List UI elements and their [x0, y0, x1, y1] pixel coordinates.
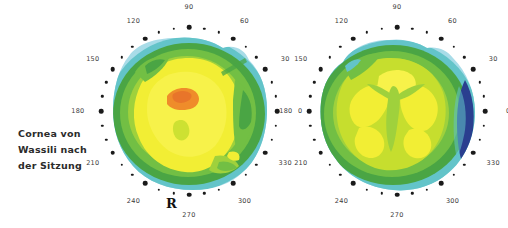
color-bands-left-eye: [297, 14, 497, 204]
tick-dot-major: [143, 36, 148, 41]
tick-label-90: 90: [393, 3, 402, 11]
tick-dot-major: [187, 192, 192, 197]
tick-label-30: 30: [489, 55, 498, 63]
tick-dot-major: [318, 151, 323, 156]
tick-dot-major: [471, 67, 476, 72]
tick-label-270: 270: [390, 211, 403, 219]
tick-dot-major: [483, 109, 488, 114]
tick-dot-major: [187, 25, 192, 30]
tick-dot-major: [351, 181, 356, 186]
tick-dot-major: [110, 67, 115, 72]
topography-surface-left-eye: [297, 14, 497, 204]
topography-map-right-eye: 0306090120150180210240270300330 R: [78, 0, 300, 228]
polar-plot-right-eye: 0306090120150180210240270300330: [89, 14, 289, 204]
tick-dot-major: [351, 36, 356, 41]
tick-label-60: 60: [448, 17, 457, 25]
polar-plot-left-eye: 0306090120150180210240270300330: [297, 14, 497, 204]
tick-dot-major: [263, 67, 268, 72]
tick-label-300: 300: [238, 197, 251, 205]
tick-dot-major: [307, 109, 312, 114]
tick-label-90: 90: [185, 3, 194, 11]
tick-dot-major: [143, 181, 148, 186]
tick-label-150: 150: [294, 55, 307, 63]
eye-label-right: R: [166, 196, 177, 211]
tick-label-60: 60: [240, 17, 249, 25]
tick-label-240: 240: [335, 197, 348, 205]
tick-dot-major: [471, 151, 476, 156]
tick-label-300: 300: [446, 197, 459, 205]
tick-dot-major: [99, 109, 104, 114]
tick-dot-major: [318, 67, 323, 72]
tick-label-270: 270: [182, 211, 195, 219]
tick-dot-major: [263, 151, 268, 156]
tick-label-120: 120: [335, 17, 348, 25]
tick-label-240: 240: [127, 197, 140, 205]
tick-label-180: 180: [279, 107, 292, 115]
tick-dot-major: [231, 181, 236, 186]
tick-dot-major: [395, 192, 400, 197]
tick-dot-major: [231, 36, 236, 41]
topography-surface-right-eye: [89, 14, 289, 204]
tick-dot-major: [439, 36, 444, 41]
tick-label-210: 210: [294, 159, 307, 167]
tick-label-180: 180: [71, 107, 84, 115]
tick-label-210: 210: [86, 159, 99, 167]
tick-dot-major: [395, 25, 400, 30]
tick-label-150: 150: [86, 55, 99, 63]
tick-dot-major: [110, 151, 115, 156]
tick-label-120: 120: [127, 17, 140, 25]
color-bands-right-eye: [89, 14, 289, 204]
tick-dot-major: [439, 181, 444, 186]
tick-label-330: 330: [487, 159, 500, 167]
topography-map-left-eye: 0306090120150180210240270300330 L: [286, 0, 508, 228]
